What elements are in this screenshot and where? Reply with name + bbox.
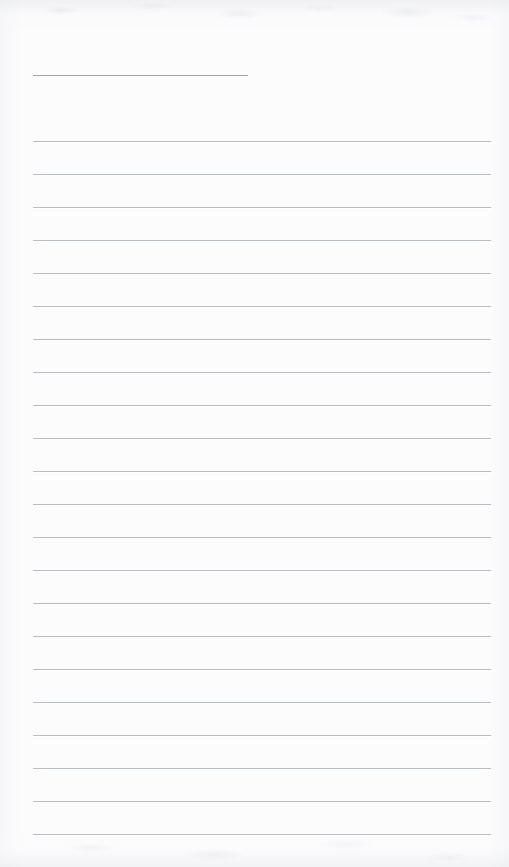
ruled-line [33,570,491,571]
ruled-line [33,702,491,703]
ruled-line [33,405,491,406]
ruled-line [33,339,491,340]
ruled-line [33,834,491,835]
ruled-line [33,636,491,637]
ruled-line [33,801,491,802]
ruled-line [33,372,491,373]
ruled-lines-area [0,0,509,867]
ruled-line [33,537,491,538]
ruled-line [33,240,491,241]
ruled-line [33,603,491,604]
ruled-line [33,174,491,175]
ruled-line [33,141,491,142]
ruled-line [33,207,491,208]
ruled-line [33,471,491,472]
ruled-line [33,669,491,670]
ruled-line [33,438,491,439]
scanned-page [0,0,509,867]
ruled-line [33,504,491,505]
ruled-line [33,306,491,307]
ruled-line [33,735,491,736]
ruled-line [33,273,491,274]
ruled-line [33,768,491,769]
